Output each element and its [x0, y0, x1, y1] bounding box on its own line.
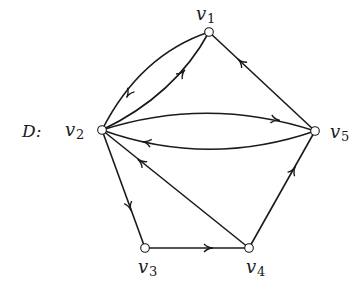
- edge-v1-to-v2: [102, 32, 209, 130]
- graph-name-label: D:: [21, 121, 41, 141]
- vertex-subscript-v1: 1: [207, 11, 215, 26]
- vertex-label-v4: v: [246, 256, 256, 277]
- vertex-subscript-v3: 3: [149, 264, 157, 279]
- vertex-subscript-v4: 4: [257, 264, 265, 279]
- vertex-label-v2: v: [65, 119, 75, 140]
- vertex-v4: [245, 244, 254, 253]
- vertex-label-v3: v: [138, 256, 148, 277]
- edge-v5-to-v1: [209, 32, 315, 131]
- vertex-v2: [98, 126, 107, 135]
- vertex-subscript-v2: 2: [76, 127, 84, 142]
- digraph-canvas: D: v1v2v3v4v5: [0, 0, 362, 291]
- vertex-label-v5: v: [330, 121, 340, 142]
- vertex-subscript-v5: 5: [341, 129, 349, 144]
- arrowhead-layer: [123, 56, 299, 252]
- edge-v2-to-v1: [102, 32, 209, 130]
- vertex-v1: [205, 28, 214, 37]
- node-label-layer: v1v2v3v4v5: [65, 3, 349, 279]
- vertex-v3: [141, 244, 150, 253]
- vertex-label-v1: v: [196, 3, 206, 24]
- edge-v5-to-v2: [102, 130, 315, 149]
- arrowhead-icon: [176, 67, 188, 79]
- edge-layer: [102, 32, 315, 248]
- vertex-v5: [311, 127, 320, 136]
- edge-v2-to-v5: [102, 113, 315, 131]
- edge-v4-to-v5: [249, 131, 315, 248]
